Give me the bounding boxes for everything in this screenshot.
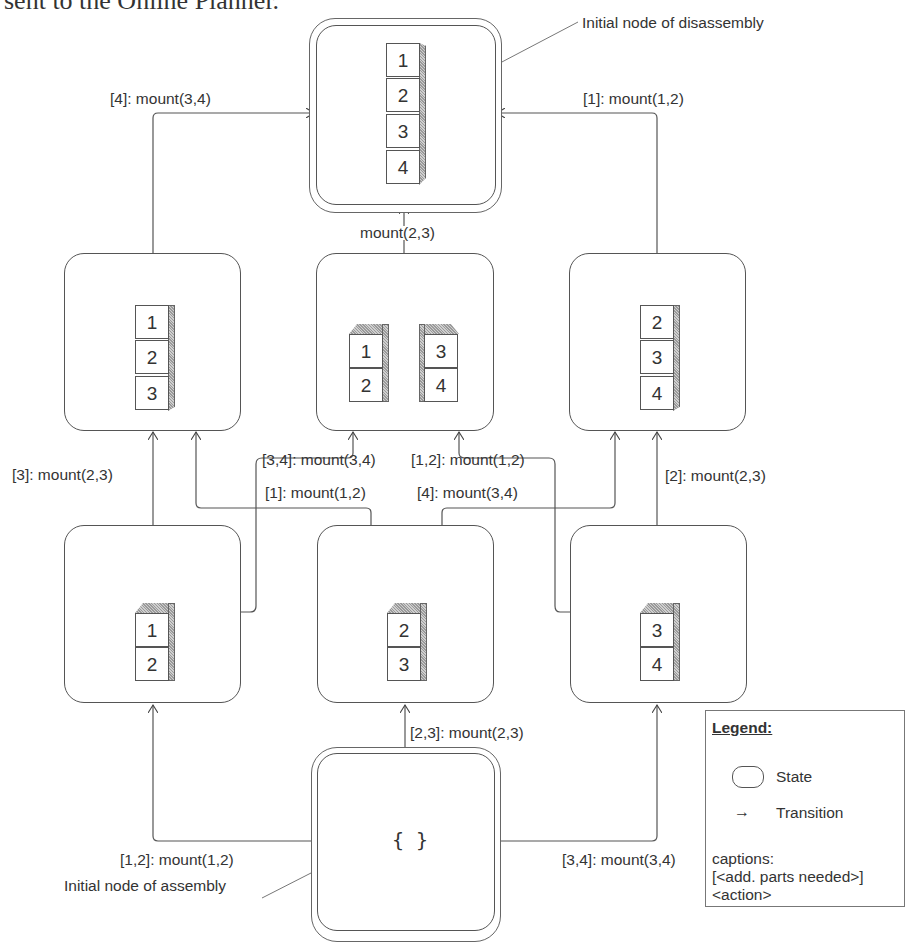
state-12-and-34 bbox=[316, 253, 494, 431]
legend-captions-line1: [<add. parts needed>] bbox=[712, 868, 864, 886]
part-cell: 3 bbox=[640, 340, 674, 374]
part-cell: 1 bbox=[349, 334, 383, 368]
part-cell: 2 bbox=[387, 613, 421, 647]
part-cell: 4 bbox=[640, 647, 674, 681]
stack-side-shade bbox=[673, 305, 680, 411]
part-cell: 4 bbox=[386, 150, 420, 184]
transition-caption: [4]: mount(3,4) bbox=[417, 484, 518, 502]
transition-caption: [2,3]: mount(2,3) bbox=[410, 724, 524, 742]
transition-caption: [3,4]: mount(3,4) bbox=[562, 851, 676, 869]
transition-caption: [1]: mount(1,2) bbox=[265, 484, 366, 502]
legend-box: Legend: State → Transition captions: [<a… bbox=[705, 710, 905, 907]
transition-caption: [1]: mount(1,2) bbox=[583, 90, 684, 108]
part-cell: 1 bbox=[386, 43, 420, 77]
part-cell: 3 bbox=[424, 334, 458, 368]
part-cell: 2 bbox=[386, 78, 420, 112]
annotation-initial-assembly: Initial node of assembly bbox=[64, 877, 226, 895]
part-cell: 3 bbox=[386, 114, 420, 148]
part-cell: 3 bbox=[135, 376, 169, 410]
annotation-initial-disassembly: Initial node of disassembly bbox=[582, 14, 764, 32]
legend-transition-label: Transition bbox=[776, 804, 843, 822]
legend-captions-line2: <action> bbox=[712, 886, 771, 904]
stack-side-shade bbox=[673, 603, 680, 681]
transition-caption: [1,2]: mount(1,2) bbox=[120, 851, 234, 869]
legend-transition-arrow-icon: → bbox=[734, 803, 750, 821]
part-cell: 2 bbox=[640, 305, 674, 339]
stack-side-shade bbox=[419, 43, 426, 185]
transition-caption: mount(2,3) bbox=[360, 224, 435, 242]
part-cell: 2 bbox=[135, 647, 169, 681]
legend-captions-title: captions: bbox=[712, 850, 774, 868]
transition-caption: [3]: mount(2,3) bbox=[12, 466, 113, 484]
part-cell: 1 bbox=[135, 305, 169, 339]
transition-caption: [3,4]: mount(3,4) bbox=[262, 451, 376, 469]
transition-caption: [1,2]: mount(1,2) bbox=[411, 451, 525, 469]
part-cell: 4 bbox=[640, 376, 674, 410]
stack-side-shade bbox=[168, 305, 175, 411]
transition-caption: [2]: mount(2,3) bbox=[665, 467, 766, 485]
stack-side-shade bbox=[168, 603, 175, 681]
part-cell: 3 bbox=[387, 647, 421, 681]
stack-side-shade bbox=[420, 603, 427, 681]
stack-side-shade bbox=[382, 324, 389, 402]
legend-state-icon bbox=[732, 766, 764, 788]
empty-set-label: { } bbox=[392, 828, 428, 852]
part-cell: 2 bbox=[135, 340, 169, 374]
legend-state-label: State bbox=[776, 768, 812, 786]
part-cell: 2 bbox=[349, 368, 383, 402]
transition-caption: [4]: mount(3,4) bbox=[110, 90, 211, 108]
legend-title: Legend: bbox=[712, 719, 772, 737]
part-cell: 4 bbox=[424, 368, 458, 402]
part-cell: 3 bbox=[640, 613, 674, 647]
part-cell: 1 bbox=[135, 613, 169, 647]
